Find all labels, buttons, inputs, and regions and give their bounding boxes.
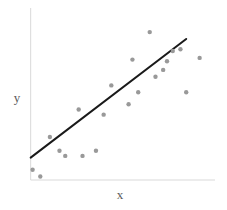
data-point <box>109 83 113 87</box>
data-point <box>148 30 152 34</box>
plot-canvas <box>0 0 227 210</box>
data-point <box>130 57 134 61</box>
data-points <box>30 30 201 179</box>
data-point <box>94 149 98 153</box>
data-point <box>101 112 105 116</box>
x-axis-label: x <box>113 188 127 201</box>
data-point <box>63 154 67 158</box>
data-point <box>153 75 157 79</box>
trend-line-segment <box>31 39 187 158</box>
data-point <box>165 59 169 63</box>
data-point <box>171 49 175 53</box>
y-axis-label: y <box>11 91 23 104</box>
data-point <box>80 154 84 158</box>
trend-line <box>31 39 187 158</box>
data-point <box>126 102 130 106</box>
data-point <box>57 149 61 153</box>
data-point <box>76 107 80 111</box>
data-point <box>48 135 52 139</box>
data-point <box>184 90 188 94</box>
data-point <box>161 68 165 72</box>
data-point <box>30 167 34 171</box>
data-point <box>136 90 140 94</box>
scatter-plot-figure: y x <box>0 0 227 210</box>
data-point <box>197 56 201 60</box>
data-point <box>178 47 182 51</box>
data-point <box>38 174 42 178</box>
